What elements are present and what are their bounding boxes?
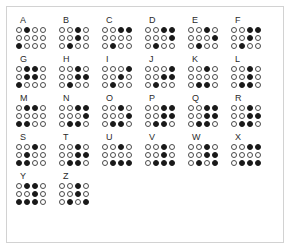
dot-filled-r2c2 [24, 152, 30, 158]
letter-label: C [106, 15, 113, 25]
dot-filled-r3c2 [24, 199, 30, 205]
dot-filled-r3c2 [110, 160, 116, 166]
letter-label: V [149, 132, 155, 142]
dot-filled-r3c4 [212, 160, 218, 166]
dot-empty-r3c4 [83, 43, 89, 49]
dot-filled-r2c3 [247, 113, 253, 119]
dot-empty-r1c1 [102, 27, 108, 33]
letter-label: Q [192, 93, 199, 103]
dot-empty-r3c4 [212, 121, 218, 127]
braille-cell-f: F [231, 15, 274, 54]
letter-label: I [106, 54, 109, 64]
letter-label: K [192, 54, 198, 64]
dot-filled-r2c2 [24, 74, 30, 80]
dot-empty-r1c2 [153, 144, 159, 150]
dot-filled-r3c2 [196, 82, 202, 88]
braille-cell-z: Z [59, 171, 102, 210]
dot-filled-r1c3 [204, 66, 210, 72]
dot-empty-r2c4 [40, 35, 46, 41]
dot-empty-r2c2 [239, 74, 245, 80]
dot-empty-r3c1 [145, 43, 151, 49]
letter-label: H [63, 54, 70, 64]
dot-filled-r3c2 [110, 82, 116, 88]
dot-grid [59, 183, 90, 206]
dot-empty-r2c2 [153, 74, 159, 80]
dot-filled-r3c3 [247, 82, 253, 88]
dot-grid [102, 144, 133, 167]
dot-empty-r2c2 [24, 191, 30, 197]
dot-empty-r3c1 [102, 43, 108, 49]
dot-filled-r3c4 [169, 160, 175, 166]
dot-filled-r1c4 [169, 27, 175, 33]
dot-empty-r1c1 [16, 105, 22, 111]
dot-filled-r3c1 [16, 82, 22, 88]
letter-label: S [20, 132, 26, 142]
letter-label: O [106, 93, 113, 103]
dot-filled-r1c3 [161, 27, 167, 33]
dot-empty-r3c3 [118, 82, 124, 88]
dot-grid [231, 27, 262, 50]
dot-empty-r2c4 [255, 152, 261, 158]
dot-grid [188, 105, 219, 128]
letter-label: X [235, 132, 241, 142]
dot-empty-r2c1 [59, 35, 65, 41]
dot-grid [59, 66, 90, 89]
letter-row: GHIJKL [16, 54, 274, 93]
dot-filled-r1c3 [247, 66, 253, 72]
dot-filled-r3c2 [67, 160, 73, 166]
braille-cell-n: N [59, 93, 102, 132]
dot-filled-r3c2 [67, 121, 73, 127]
dot-filled-r3c2 [196, 121, 202, 127]
dot-empty-r3c1 [102, 82, 108, 88]
dot-filled-r2c4 [212, 35, 218, 41]
dot-grid [102, 27, 133, 50]
dot-empty-r2c2 [153, 113, 159, 119]
dot-empty-r3c3 [32, 160, 38, 166]
dot-empty-r2c2 [24, 35, 30, 41]
dot-empty-r3c4 [83, 121, 89, 127]
dot-empty-r1c3 [118, 66, 124, 72]
dot-empty-r2c2 [67, 191, 73, 197]
dot-filled-r1c4 [126, 27, 132, 33]
dot-empty-r2c3 [32, 35, 38, 41]
dot-empty-r2c4 [126, 35, 132, 41]
dot-empty-r2c2 [110, 74, 116, 80]
dot-empty-r1c2 [67, 27, 73, 33]
dot-empty-r3c1 [188, 82, 194, 88]
dot-empty-r1c4 [83, 66, 89, 72]
braille-cell-y: Y [16, 171, 59, 210]
dot-filled-r3c3 [75, 121, 81, 127]
dot-filled-r1c2 [24, 66, 30, 72]
dot-empty-r2c2 [110, 152, 116, 158]
braille-cell-l: L [231, 54, 274, 93]
dot-grid [59, 27, 90, 50]
dot-filled-r3c3 [75, 160, 81, 166]
dot-empty-r2c1 [231, 113, 237, 119]
braille-cell-b: B [59, 15, 102, 54]
dot-grid [231, 105, 262, 128]
dot-empty-r2c1 [16, 74, 22, 80]
letter-grid: ABCDEFGHIJKLMNOPQRSTUVWXYZ [7, 7, 283, 242]
letter-label: G [20, 54, 27, 64]
dot-empty-r2c3 [75, 113, 81, 119]
dot-empty-r2c1 [231, 74, 237, 80]
dot-empty-r1c1 [102, 105, 108, 111]
dot-empty-r1c2 [196, 105, 202, 111]
dot-empty-r2c2 [239, 113, 245, 119]
dot-grid [102, 66, 133, 89]
dot-grid [188, 66, 219, 89]
dot-empty-r2c2 [153, 152, 159, 158]
dot-empty-r3c1 [59, 160, 65, 166]
dot-empty-r2c1 [16, 191, 22, 197]
dot-filled-r1c3 [161, 144, 167, 150]
dot-empty-r2c1 [102, 152, 108, 158]
dot-filled-r3c3 [247, 160, 253, 166]
dot-empty-r1c1 [102, 66, 108, 72]
dot-empty-r1c4 [40, 27, 46, 33]
dot-filled-r3c3 [204, 121, 210, 127]
dot-empty-r2c1 [16, 35, 22, 41]
dot-filled-r1c3 [75, 27, 81, 33]
dot-empty-r1c1 [231, 66, 237, 72]
dot-empty-r1c3 [32, 27, 38, 33]
dot-empty-r1c1 [188, 27, 194, 33]
